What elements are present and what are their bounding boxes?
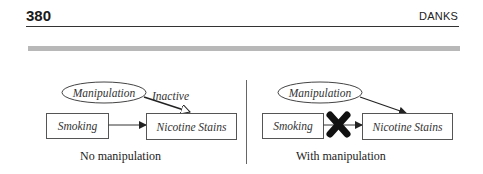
manipulation-node-label: Manipulation [72, 87, 136, 100]
left-panel-caption: No manipulation [80, 149, 161, 163]
right-panel-with-manipulation: Manipulation Smoking Nicotine Stains Wit… [263, 82, 453, 163]
smoking-node: Smoking [47, 114, 109, 139]
inactive-edge-label: Inactive [151, 90, 189, 102]
smoking-node-label: Smoking [273, 120, 313, 133]
smoking-node-label: Smoking [58, 120, 98, 133]
manipulation-node-label: Manipulation [288, 87, 352, 100]
nicotine-stains-node: Nicotine Stains [363, 114, 453, 140]
active-manipulation-arrow [360, 97, 406, 113]
left-panel-no-manipulation: Manipulation Inactive Smoking Nicotine S… [47, 82, 237, 163]
nicotine-stains-node: Nicotine Stains [147, 114, 237, 140]
manipulation-node: Manipulation [62, 82, 146, 103]
manipulation-node: Manipulation [278, 82, 362, 103]
causal-diagram-figure: Manipulation Inactive Smoking Nicotine S… [0, 0, 483, 174]
nicotine-stains-node-label: Nicotine Stains [372, 121, 443, 133]
right-panel-caption: With manipulation [296, 149, 386, 163]
smoking-node: Smoking [263, 114, 324, 139]
nicotine-stains-node-label: Nicotine Stains [156, 121, 227, 133]
